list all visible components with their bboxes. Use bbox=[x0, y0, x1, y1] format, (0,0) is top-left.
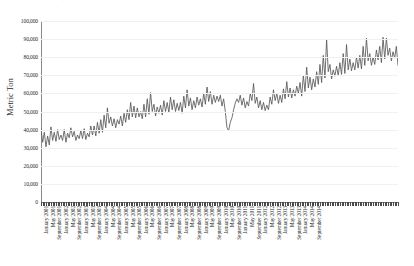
x-tick-label: January 2009 bbox=[203, 206, 209, 234]
gridlines bbox=[41, 21, 398, 202]
x-tick-label: September 2008 bbox=[196, 206, 202, 240]
y-tick-label: 20,000 bbox=[24, 163, 38, 169]
gridline bbox=[41, 112, 398, 113]
plot-area bbox=[41, 21, 398, 202]
x-tick-label: January 2003 bbox=[83, 206, 89, 234]
y-tick-label: 30,000 bbox=[24, 145, 38, 151]
x-tick-label: September 2010 bbox=[236, 206, 242, 240]
gridline bbox=[41, 75, 398, 76]
x-tick-label: January 2014 bbox=[302, 206, 308, 234]
y-tick-label: 50,000 bbox=[24, 109, 38, 115]
x-tick-label: May 2013 bbox=[289, 206, 295, 227]
gridline bbox=[41, 184, 398, 185]
x-tick-label: January 2007 bbox=[163, 206, 169, 234]
x-tick-label: May 2009 bbox=[209, 206, 215, 227]
x-tick-label: January 2008 bbox=[183, 206, 189, 234]
x-tick-label: September 2005 bbox=[136, 206, 142, 240]
x-tick-label: May 2001 bbox=[50, 206, 56, 227]
gridline bbox=[41, 93, 398, 94]
y-tick-label: 100,000 bbox=[21, 18, 38, 24]
y-tick-label: 60,000 bbox=[24, 90, 38, 96]
x-tick-label: May 2010 bbox=[229, 206, 235, 227]
x-tick-label: September 2014 bbox=[316, 206, 322, 240]
y-tick-label: 40,000 bbox=[24, 127, 38, 133]
x-tick-label: January 2001 bbox=[43, 206, 49, 234]
x-tick-label: September 2011 bbox=[256, 206, 262, 240]
x-tick-label: May 2014 bbox=[309, 206, 315, 227]
gridline bbox=[41, 57, 398, 58]
x-tick-label: September 2004 bbox=[116, 206, 122, 240]
y-axis-tick-labels: 010,00020,00030,00040,00050,00060,00070,… bbox=[0, 0, 41, 208]
x-tick-label: September 2012 bbox=[276, 206, 282, 240]
gridline bbox=[41, 39, 398, 40]
x-tick-label: May 2002 bbox=[70, 206, 76, 227]
x-tick-label: May 2007 bbox=[169, 206, 175, 227]
gridline bbox=[41, 130, 398, 131]
x-tick-label: September 2007 bbox=[176, 206, 182, 240]
y-tick-label: 10,000 bbox=[24, 181, 38, 187]
x-tick-label: September 2003 bbox=[96, 206, 102, 240]
gridline bbox=[41, 166, 398, 167]
x-tick-label: May 2005 bbox=[130, 206, 136, 227]
x-axis-tick-labels: January 2001May 2001September 2001Januar… bbox=[41, 206, 398, 264]
x-tick-label: January 2004 bbox=[103, 206, 109, 234]
x-tick-label: January 2011 bbox=[242, 206, 248, 234]
y-tick-label: 0 bbox=[35, 199, 38, 205]
x-tick-mark bbox=[398, 202, 399, 206]
x-tick-label: January 2013 bbox=[282, 206, 288, 234]
gridline bbox=[41, 148, 398, 149]
y-tick-label: 90,000 bbox=[24, 36, 38, 42]
x-tick-label: May 2012 bbox=[269, 206, 275, 227]
x-tick-label: January 2006 bbox=[143, 206, 149, 234]
y-tick-label: 80,000 bbox=[24, 54, 38, 60]
chart-page: · · · · Metric Ton 010,00020,00030,00040… bbox=[0, 0, 414, 266]
x-tick-label: September 2006 bbox=[156, 206, 162, 240]
x-tick-label: September 2013 bbox=[296, 206, 302, 240]
x-tick-label: January 2012 bbox=[262, 206, 268, 234]
y-tick-label: 70,000 bbox=[24, 72, 38, 78]
x-tick-label: May 2006 bbox=[149, 206, 155, 227]
x-tick-label: January 2005 bbox=[123, 206, 129, 234]
x-tick-label: January 2002 bbox=[63, 206, 69, 234]
x-tick-label: May 2004 bbox=[110, 206, 116, 227]
x-tick-label: May 2008 bbox=[189, 206, 195, 227]
x-tick-label: September 2009 bbox=[216, 206, 222, 240]
x-tick-label: January 2010 bbox=[223, 206, 229, 234]
x-tick-label: September 2001 bbox=[56, 206, 62, 240]
x-tick-label: September 2002 bbox=[76, 206, 82, 240]
x-tick-label: May 2011 bbox=[249, 206, 255, 227]
ghost-title-text: · · · · bbox=[62, 0, 82, 5]
top-ghost-strip: · · · · bbox=[0, 0, 414, 9]
x-tick-label: May 2003 bbox=[90, 206, 96, 227]
gridline bbox=[41, 21, 398, 22]
